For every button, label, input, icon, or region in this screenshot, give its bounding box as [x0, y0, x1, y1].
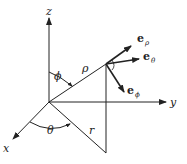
x-label: x	[3, 142, 10, 155]
z-label: z	[45, 5, 52, 18]
e-phi-vector	[106, 64, 124, 92]
phi-label: ϕ	[54, 70, 62, 83]
svg-text:θ: θ	[151, 57, 156, 65]
rho-label: ρ	[81, 62, 89, 75]
svg-text:ϕ: ϕ	[135, 91, 140, 99]
right-angle-mark	[112, 60, 114, 70]
svg-text:ρ: ρ	[144, 39, 150, 47]
r-label: r	[89, 124, 95, 137]
theta-label: θ	[47, 124, 54, 137]
e-rho-label: e ρ	[137, 32, 150, 47]
x-axis	[13, 102, 49, 139]
svg-text:e: e	[137, 32, 144, 45]
svg-text:e: e	[143, 50, 150, 63]
svg-text:e: e	[127, 84, 134, 97]
r-line	[49, 102, 106, 153]
spherical-coordinates-diagram: z y x ρ r θ ϕ e ρ e θ e ϕ	[0, 0, 187, 164]
e-theta-label: e θ	[143, 50, 156, 65]
e-phi-label: e ϕ	[127, 84, 140, 99]
y-label: y	[169, 96, 177, 109]
